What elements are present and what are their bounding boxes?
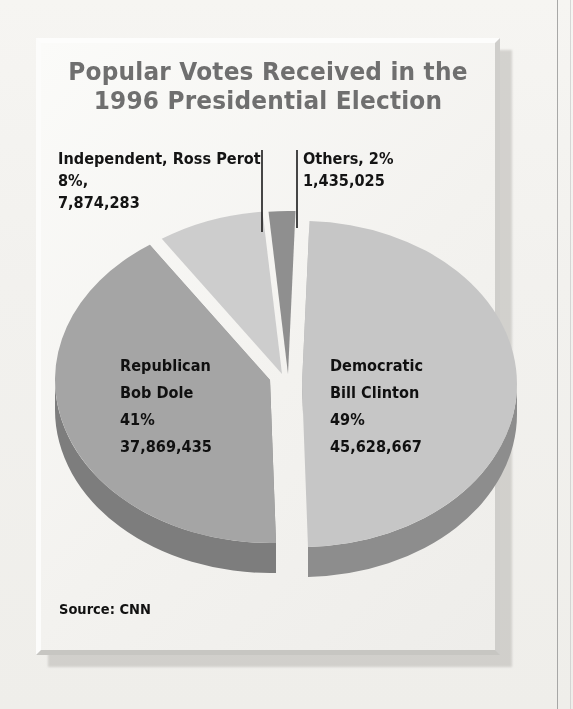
slice-label-democratic: Democratic Bill Clinton 49% 45,628,667 [330,352,423,460]
page-column-rule-secondary [570,0,571,709]
callout-label-perot: Independent, Ross Perot 8%, 7,874,283 [58,148,261,214]
callout-label-others: Others, 2% 1,435,025 [303,148,394,192]
page-column-rule [557,0,558,709]
source-note: Source: CNN [59,601,151,617]
chart-panel [36,38,500,655]
page-title: Popular Votes Received in the 1996 Presi… [52,57,484,115]
slice-label-republican: Republican Bob Dole 41% 37,869,435 [120,352,212,460]
